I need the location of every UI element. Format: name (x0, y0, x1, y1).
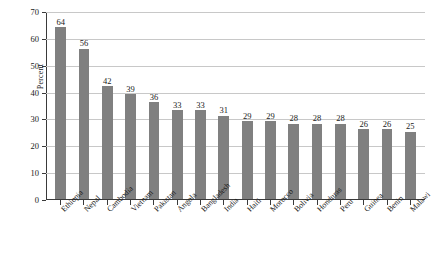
bar-value-label: 28 (336, 114, 345, 123)
bar-slot: 39 (119, 11, 142, 199)
bar-slot: 29 (259, 11, 282, 199)
bar-value-label: 29 (266, 112, 275, 121)
bar: 64 (55, 27, 66, 199)
x-axis-labels: EthiopiaNepalCambodiaVietnamPakistanAngo… (46, 206, 425, 264)
bar-slot: 42 (96, 11, 119, 199)
bar: 28 (312, 124, 323, 199)
bar-value-label: 33 (196, 101, 205, 110)
bar-value-label: 64 (56, 18, 65, 27)
bar-slot: 26 (375, 11, 398, 199)
bar: 33 (172, 110, 183, 199)
x-label-slot: Benin (375, 206, 398, 264)
bar: 36 (149, 102, 160, 199)
x-label-slot: Morocco (259, 206, 282, 264)
bar: 29 (265, 121, 276, 199)
bar: 25 (405, 132, 416, 199)
x-label-slot: Honduras (305, 206, 328, 264)
bar-chart: Percent 010203040506070 6456423936333331… (0, 0, 443, 266)
y-axis-label: Percent (36, 39, 45, 115)
x-label-slot: Cambodia (96, 206, 119, 264)
bar: 26 (382, 129, 393, 199)
x-label-slot: Malawi (399, 206, 422, 264)
bar-slot: 28 (329, 11, 352, 199)
x-label-slot: Bangladesh (189, 206, 212, 264)
plot-area: 010203040506070 645642393633333129292828… (46, 12, 425, 200)
x-label-slot: Haiti (236, 206, 259, 264)
bar-value-label: 36 (150, 93, 159, 102)
y-tick-label: 0 (35, 196, 39, 205)
bar-value-label: 28 (313, 114, 322, 123)
bar-slot: 33 (166, 11, 189, 199)
bar-value-label: 56 (80, 39, 89, 48)
bar-value-label: 26 (359, 120, 368, 129)
y-tick-label: 30 (31, 115, 40, 124)
bar: 33 (195, 110, 206, 199)
bar-slot: 33 (189, 11, 212, 199)
bar-value-label: 26 (383, 120, 392, 129)
bar: 39 (125, 94, 136, 199)
x-label-slot: India (212, 206, 235, 264)
y-tick-label: 40 (31, 88, 40, 97)
bar-slot: 36 (142, 11, 165, 199)
bar-slot: 28 (282, 11, 305, 199)
bar-slot: 29 (236, 11, 259, 199)
bar-value-label: 33 (173, 101, 182, 110)
bar-slot: 31 (212, 11, 235, 199)
bar-slot: 64 (49, 11, 72, 199)
x-label-slot: Peru (329, 206, 352, 264)
x-label-slot: Vietnam (119, 206, 142, 264)
bar-slot: 56 (72, 11, 95, 199)
bar-slot: 25 (399, 11, 422, 199)
bar-value-label: 29 (243, 112, 252, 121)
y-tick-label: 20 (31, 142, 40, 151)
bar-series: 64564239363333312929282828262625 (46, 11, 425, 199)
y-tick-label: 70 (31, 8, 40, 17)
bar: 56 (79, 49, 90, 199)
y-tick-label: 60 (31, 35, 40, 44)
x-label-slot: Guinea (352, 206, 375, 264)
x-label-slot: Angola (166, 206, 189, 264)
y-tick-label: 10 (31, 169, 40, 178)
bar-slot: 26 (352, 11, 375, 199)
bar: 26 (358, 129, 369, 199)
bar-slot: 28 (305, 11, 328, 199)
x-label-slot: Bolivia (282, 206, 305, 264)
bar: 29 (242, 121, 253, 199)
bar-value-label: 39 (126, 85, 135, 94)
x-label-slot: Nepal (72, 206, 95, 264)
bar: 42 (102, 86, 113, 199)
bar-value-label: 31 (220, 106, 229, 115)
bar-value-label: 42 (103, 77, 112, 86)
x-label-slot: Ethiopia (49, 206, 72, 264)
bar-value-label: 28 (290, 114, 299, 123)
x-label-slot: Pakistan (142, 206, 165, 264)
bar-value-label: 25 (406, 122, 415, 131)
y-tick-label: 50 (31, 61, 40, 70)
